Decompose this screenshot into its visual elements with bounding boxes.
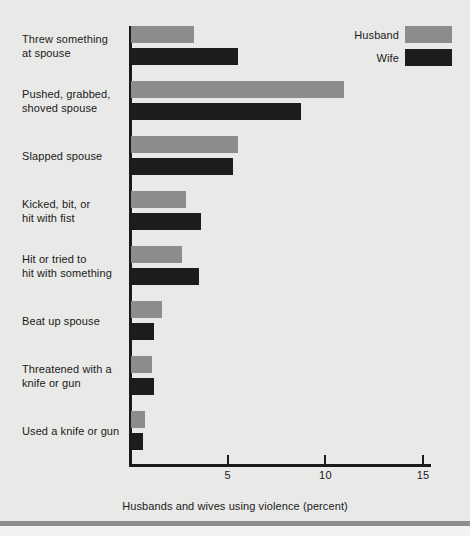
x-tick-label-5: 5 <box>225 469 231 481</box>
category-label-4: Hit or tried tohit with something <box>22 252 126 280</box>
category-label-line: at spouse <box>22 46 126 60</box>
chart-legend: HusbandWife <box>322 26 452 72</box>
bar-wife-0 <box>131 48 238 65</box>
category-label-line: knife or gun <box>22 376 126 390</box>
legend-swatch-husband <box>405 26 452 43</box>
bar-husband-5 <box>131 301 162 318</box>
bar-husband-2 <box>131 136 238 153</box>
category-label-line: Kicked, bit, or <box>22 197 126 211</box>
bar-wife-3 <box>131 213 201 230</box>
category-label-1: Pushed, grabbed,shoved spouse <box>22 87 126 115</box>
chart-figure: 51015 Threw somethingat spousePushed, gr… <box>0 0 470 536</box>
x-tick-label-10: 10 <box>319 469 332 481</box>
x-axis-line <box>129 464 431 467</box>
category-label-2: Slapped spouse <box>22 149 126 163</box>
plot-area: 51015 Threw somethingat spousePushed, gr… <box>0 0 470 536</box>
category-label-line: shoved spouse <box>22 101 126 115</box>
legend-item-wife: Wife <box>322 49 452 66</box>
x-axis-title: Husbands and wives using violence (perce… <box>0 500 470 512</box>
legend-label: Wife <box>377 52 399 64</box>
bar-husband-7 <box>131 411 145 428</box>
bar-wife-4 <box>131 268 199 285</box>
category-label-6: Threatened with aknife or gun <box>22 362 126 390</box>
bar-wife-1 <box>131 103 301 120</box>
category-label-line: Beat up spouse <box>22 314 126 328</box>
legend-swatch-wife <box>405 49 452 66</box>
x-tick-10 <box>324 455 326 465</box>
category-label-line: hit with something <box>22 266 126 280</box>
figure-bottom-margin <box>0 526 470 536</box>
legend-item-husband: Husband <box>322 26 452 43</box>
bar-husband-3 <box>131 191 186 208</box>
category-label-line: Pushed, grabbed, <box>22 87 126 101</box>
bar-husband-1 <box>131 81 344 98</box>
category-label-0: Threw somethingat spouse <box>22 32 126 60</box>
bar-wife-6 <box>131 378 154 395</box>
category-label-5: Beat up spouse <box>22 314 126 328</box>
category-label-line: hit with fist <box>22 211 126 225</box>
bar-husband-4 <box>131 246 182 263</box>
bar-wife-5 <box>131 323 154 340</box>
x-tick-15 <box>422 455 424 465</box>
category-label-line: Hit or tried to <box>22 252 126 266</box>
category-label-line: Threw something <box>22 32 126 46</box>
x-tick-label-15: 15 <box>417 469 430 481</box>
category-label-line: Used a knife or gun <box>22 424 126 438</box>
category-label-3: Kicked, bit, orhit with fist <box>22 197 126 225</box>
bar-husband-6 <box>131 356 152 373</box>
legend-label: Husband <box>354 29 399 41</box>
bar-wife-7 <box>131 433 143 450</box>
x-tick-5 <box>227 455 229 465</box>
category-label-line: Slapped spouse <box>22 149 126 163</box>
bar-wife-2 <box>131 158 233 175</box>
bar-husband-0 <box>131 26 194 43</box>
category-label-7: Used a knife or gun <box>22 424 126 438</box>
category-label-line: Threatened with a <box>22 362 126 376</box>
